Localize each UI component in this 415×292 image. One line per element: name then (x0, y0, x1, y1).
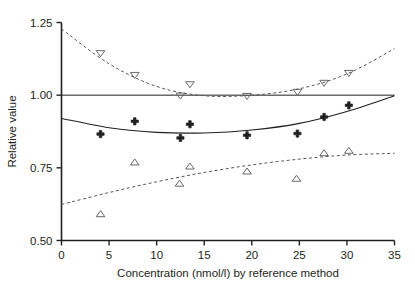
fit-curve (62, 96, 395, 133)
x-tick-label: 25 (293, 249, 306, 261)
data-point-triangle-up-marker (175, 180, 184, 186)
data-point-triangle-up-marker (243, 168, 252, 174)
data-point-triangle-up-marker (292, 175, 301, 181)
data-point-triangle-down-marker (130, 72, 139, 78)
x-tick-label: 5 (106, 249, 112, 261)
data-point-triangle-up-marker (186, 163, 195, 169)
data-point-plus-marker (243, 132, 250, 139)
data-point-triangle-down-marker (293, 89, 302, 95)
relative-value-vs-concentration-scatter-chart: 0.500.751.001.2505101520253035Concentrat… (0, 0, 415, 292)
y-tick-label: 1.00 (30, 89, 52, 101)
x-tick-label: 10 (150, 249, 163, 261)
y-tick-label: 0.50 (30, 235, 52, 247)
x-axis-title: Concentration (nmol/l) by reference meth… (117, 267, 339, 279)
y-tick-label: 1.25 (30, 17, 52, 29)
y-axis-title: Relative value (6, 95, 18, 167)
fit-curve (62, 29, 395, 97)
x-tick-label: 30 (341, 249, 354, 261)
series-mean-relative-value (97, 102, 353, 142)
data-point-triangle-down-marker (320, 80, 329, 86)
data-point-plus-marker (294, 130, 301, 137)
data-point-plus-marker (97, 131, 104, 138)
data-point-triangle-down-marker (186, 82, 195, 88)
chart-figure: 0.500.751.001.2505101520253035Concentrat… (0, 0, 415, 292)
data-point-triangle-up-marker (320, 150, 329, 156)
x-tick-label: 15 (198, 249, 211, 261)
fit-curve (62, 153, 395, 204)
x-tick-label: 35 (388, 249, 401, 261)
x-tick-label: 20 (245, 249, 258, 261)
data-point-triangle-up-marker (96, 211, 105, 217)
data-point-triangle-up-marker (130, 159, 139, 165)
data-point-plus-marker (186, 121, 193, 128)
data-point-plus-marker (177, 134, 184, 141)
series-upper-limit-of-agreement (96, 51, 353, 100)
data-point-plus-marker (320, 113, 327, 120)
data-point-triangle-down-marker (176, 93, 185, 99)
x-tick-label: 0 (58, 249, 64, 261)
y-tick-label: 0.75 (30, 162, 52, 174)
data-point-plus-marker (131, 118, 138, 125)
data-point-triangle-up-marker (345, 147, 354, 153)
data-point-triangle-down-marker (243, 93, 252, 99)
data-point-plus-marker (345, 102, 352, 109)
